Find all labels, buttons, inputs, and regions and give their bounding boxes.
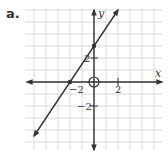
x-tick-label: −2	[69, 84, 84, 95]
y-axis-label: y	[97, 7, 105, 20]
data-point	[68, 80, 72, 84]
coordinate-plane: xy−222−2	[0, 0, 168, 155]
x-tick-label: 2	[115, 84, 121, 95]
y-tick-label: −2	[77, 101, 92, 112]
plotted-line	[34, 10, 118, 136]
x-axis-label: x	[155, 67, 162, 80]
data-point	[92, 44, 96, 48]
